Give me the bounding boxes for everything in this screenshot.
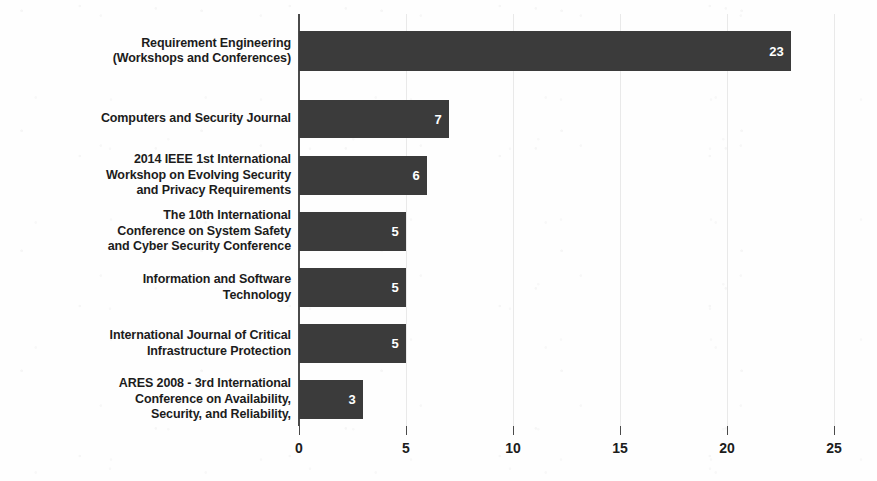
category-label: International Journal of Critical Infras… [6, 328, 291, 359]
bar-value-label: 3 [349, 392, 356, 407]
category-label: Information and Software Technology [6, 272, 291, 303]
category-label: The 10th International Conference on Sys… [6, 208, 291, 255]
table-row[interactable]: 2014 IEEE 1st International Workshop on … [0, 156, 877, 195]
x-tick-20 [727, 426, 728, 435]
bar-container: 5 [299, 212, 406, 251]
bar-value-label: 5 [392, 336, 399, 351]
category-label: Requirement Engineering (Workshops and C… [6, 36, 291, 67]
x-tick-25 [834, 426, 835, 435]
x-tick-0 [299, 426, 300, 435]
table-row[interactable]: The 10th International Conference on Sys… [0, 212, 877, 251]
x-tick-label: 15 [612, 440, 628, 456]
x-axis: 0 5 10 15 20 25 [299, 426, 855, 427]
x-tick-label: 20 [719, 440, 735, 456]
bar[interactable]: 5 [299, 324, 406, 363]
bar-value-label: 5 [392, 224, 399, 239]
table-row[interactable]: Requirement Engineering (Workshops and C… [0, 31, 877, 71]
bar-container: 3 [299, 380, 363, 419]
bar[interactable]: 3 [299, 380, 363, 419]
bar[interactable]: 5 [299, 212, 406, 251]
bar-container: 23 [299, 31, 791, 71]
x-tick-label: 25 [826, 440, 842, 456]
x-tick-5 [406, 426, 407, 435]
bar[interactable]: 7 [299, 100, 449, 138]
bar-container: 5 [299, 324, 406, 363]
category-label: ARES 2008 - 3rd International Conference… [6, 376, 291, 423]
x-tick-10 [513, 426, 514, 435]
bar-value-label: 5 [392, 280, 399, 295]
bar-rows: Requirement Engineering (Workshops and C… [0, 14, 877, 426]
table-row[interactable]: Information and Software Technology 5 [0, 268, 877, 307]
x-tick-15 [620, 426, 621, 435]
table-row[interactable]: ARES 2008 - 3rd International Conference… [0, 380, 877, 419]
bar-value-label: 7 [435, 112, 442, 127]
bar-value-label: 6 [413, 168, 420, 183]
bar-container: 7 [299, 100, 449, 138]
bar-value-label: 23 [769, 44, 784, 59]
x-tick-label: 0 [295, 440, 303, 456]
bar[interactable]: 5 [299, 268, 406, 307]
table-row[interactable]: International Journal of Critical Infras… [0, 324, 877, 363]
x-tick-label: 10 [505, 440, 521, 456]
bar-container: 6 [299, 156, 427, 195]
category-label: Computers and Security Journal [6, 111, 291, 127]
bar-chart: Requirement Engineering (Workshops and C… [0, 0, 877, 481]
table-row[interactable]: Computers and Security Journal 7 [0, 100, 877, 138]
category-label: 2014 IEEE 1st International Workshop on … [6, 152, 291, 199]
bar[interactable]: 6 [299, 156, 427, 195]
bar-container: 5 [299, 268, 406, 307]
bar[interactable]: 23 [299, 31, 791, 71]
x-tick-label: 5 [402, 440, 410, 456]
